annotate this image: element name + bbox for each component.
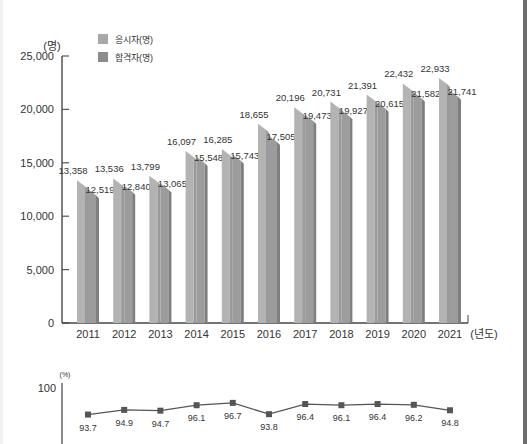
- passer-bar: [124, 186, 132, 323]
- pass-rate-value-label: 94.7: [152, 419, 170, 429]
- legend-swatch: [98, 52, 108, 62]
- passer-bar: [378, 103, 386, 323]
- passer-bar-side: [422, 99, 425, 323]
- line-y-tick-label: 100: [38, 382, 56, 394]
- x-tick-label: 2017: [293, 328, 317, 340]
- applicant-bar-side: [411, 89, 414, 323]
- pass-rate-value-label: 93.7: [79, 423, 97, 433]
- x-tick-label: 2012: [112, 328, 136, 340]
- passer-bar-side: [349, 116, 352, 323]
- legend-label: 응시자(명): [115, 35, 153, 45]
- pass-rate-marker: [121, 407, 127, 413]
- pass-rate-value-label: 94.9: [115, 418, 133, 428]
- passer-bar-side: [132, 192, 135, 323]
- y-tick-label: 5,000: [26, 264, 54, 276]
- pass-rate-marker: [230, 400, 236, 406]
- pass-rate-marker: [157, 408, 163, 414]
- passer-bar-side: [386, 109, 389, 323]
- applicant-bar: [258, 124, 266, 323]
- legend-label: 합격자(명): [115, 52, 153, 63]
- passer-bar-side: [96, 195, 99, 323]
- passer-value-label: 13,065: [158, 178, 187, 189]
- chart-canvas: (명)05,00010,00015,00020,00025,000(년도)응시자…: [0, 0, 527, 444]
- applicant-value-label: 13,536: [95, 163, 124, 174]
- passer-bar: [305, 115, 313, 323]
- passer-value-label: 19,473: [303, 110, 332, 121]
- passer-bar: [160, 183, 168, 323]
- pass-rate-value-label: 96.2: [405, 413, 423, 423]
- applicant-bar: [186, 151, 194, 323]
- pass-rate-value-label: 96.1: [333, 413, 351, 423]
- applicant-bar: [439, 78, 447, 323]
- passer-bar: [450, 91, 458, 323]
- passer-value-label: 12,840: [122, 181, 151, 192]
- passer-bar-side: [205, 163, 208, 323]
- pass-rate-value-label: 96.4: [296, 412, 314, 422]
- x-tick-label: 2016: [257, 328, 281, 340]
- passer-value-label: 12,519: [85, 184, 114, 195]
- x-tick-label: 2019: [365, 328, 389, 340]
- passer-bar: [341, 110, 349, 323]
- applicant-value-label: 13,358: [58, 165, 87, 176]
- legend-swatch: [98, 34, 108, 44]
- pass-rate-value-label: 94.8: [441, 418, 459, 428]
- passer-bar: [197, 157, 205, 323]
- line-y-unit-label: (%): [60, 371, 71, 379]
- pass-rate-value-label: 96.7: [224, 411, 242, 421]
- applicant-value-label: 20,196: [276, 92, 305, 103]
- applicant-value-label: 13,799: [131, 161, 160, 172]
- applicant-bar-side: [194, 157, 197, 323]
- passer-value-label: 17,505: [266, 131, 295, 142]
- applicant-bar: [330, 102, 338, 323]
- applicant-bar-side: [85, 186, 88, 323]
- y-tick-label: 20,000: [20, 103, 54, 115]
- passer-bar-side: [313, 121, 316, 323]
- x-tick-label: 2011: [76, 328, 100, 340]
- passer-bar: [414, 93, 422, 323]
- passer-bar-side: [458, 97, 461, 323]
- x-tick-label: 2013: [148, 328, 172, 340]
- applicant-value-label: 18,655: [239, 109, 268, 120]
- passer-bar-side: [241, 161, 244, 323]
- applicant-value-label: 16,285: [203, 134, 232, 145]
- applicant-bar-side: [157, 182, 160, 323]
- applicant-value-label: 21,391: [348, 80, 377, 91]
- pass-rate-marker: [194, 402, 200, 408]
- pass-rate-marker: [338, 402, 344, 408]
- passer-value-label: 20,615: [375, 98, 404, 109]
- applicant-bar: [403, 83, 411, 323]
- applicant-value-label: 20,731: [312, 87, 341, 98]
- passer-bar-side: [168, 189, 171, 323]
- y-tick-label: 25,000: [20, 50, 54, 62]
- passer-value-label: 21,741: [447, 86, 476, 97]
- x-tick-label: 2014: [184, 328, 208, 340]
- pass-rate-marker: [85, 412, 91, 418]
- pass-rate-value-label: 96.4: [369, 412, 387, 422]
- pass-rate-marker: [266, 411, 272, 417]
- applicant-value-label: 22,933: [420, 63, 449, 74]
- y-tick-label: 0: [48, 317, 54, 329]
- pass-rate-marker: [411, 402, 417, 408]
- applicant-bar: [294, 107, 302, 323]
- passer-bar: [269, 136, 277, 323]
- y-tick-label: 10,000: [20, 210, 54, 222]
- applicant-bar-side: [447, 84, 450, 323]
- applicant-bar-side: [266, 130, 269, 323]
- applicant-bar-side: [375, 101, 378, 323]
- y-tick-label: 15,000: [20, 157, 54, 169]
- x-tick-label: 2021: [438, 328, 462, 340]
- x-tick-label: 2018: [329, 328, 353, 340]
- passer-bar: [88, 189, 96, 323]
- passer-value-label: 19,927: [339, 105, 368, 116]
- x-tick-label: 2020: [402, 328, 426, 340]
- applicant-value-label: 16,097: [167, 136, 196, 147]
- applicant-bar-side: [302, 113, 305, 323]
- applicant-bar-side: [230, 155, 233, 323]
- pass-rate-value-label: 96.1: [188, 413, 206, 423]
- passer-value-label: 21,582: [411, 88, 440, 99]
- passer-value-label: 15,548: [194, 152, 223, 163]
- pass-rate-marker: [447, 407, 453, 413]
- passer-bar: [233, 155, 241, 323]
- pass-rate-value-label: 93.8: [260, 422, 278, 432]
- pass-rate-marker: [302, 401, 308, 407]
